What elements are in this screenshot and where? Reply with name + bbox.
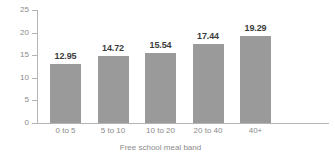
y-axis-tick [32, 100, 37, 101]
y-axis-tick-label: 15 [0, 51, 29, 59]
y-axis-tick [32, 55, 37, 56]
bar-value-label: 17.44 [186, 32, 230, 41]
bar [240, 36, 271, 123]
y-axis-tick-label: 5 [0, 96, 29, 104]
x-axis-title: Free school meal band [50, 143, 271, 152]
y-axis-tick [32, 33, 37, 34]
bar [98, 56, 129, 123]
y-axis-tick [32, 123, 37, 124]
bar-value-label: 14.72 [91, 44, 135, 53]
x-axis-category-label: 40+ [229, 126, 283, 135]
y-axis-tick-label: 10 [0, 74, 29, 82]
bar [145, 53, 176, 123]
plot-area: 0510152025 12.9514.7215.5417.4419.29 0 t… [0, 0, 335, 161]
bar [193, 44, 224, 123]
bar-value-label: 19.29 [234, 24, 278, 33]
y-axis-tick-label: 0 [0, 119, 29, 127]
y-axis-line [37, 10, 38, 124]
y-axis-tick-label: 20 [0, 29, 29, 37]
x-axis-category-label: 20 to 40 [181, 126, 235, 135]
x-axis-category-label: 0 to 5 [39, 126, 93, 135]
bar-value-label: 15.54 [139, 41, 183, 50]
x-axis-category-label: 10 to 20 [134, 126, 188, 135]
bar-chart: 0510152025 12.9514.7215.5417.4419.29 0 t… [0, 0, 335, 161]
x-axis-line [37, 123, 329, 124]
y-axis-tick-label: 25 [0, 6, 29, 14]
x-axis-category-label: 5 to 10 [86, 126, 140, 135]
bar [50, 64, 81, 123]
y-axis-tick [32, 78, 37, 79]
bar-value-label: 12.95 [44, 52, 88, 61]
y-axis-tick [32, 10, 37, 11]
